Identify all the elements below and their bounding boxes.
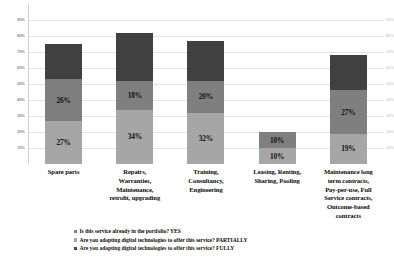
legend-item[interactable]: Is this service already in the portfolio… bbox=[74, 228, 374, 235]
bar-segment[interactable] bbox=[116, 33, 153, 81]
y-axis-tick-label: 60% bbox=[17, 66, 25, 70]
y-axis-tick-label-right: 40% bbox=[386, 98, 394, 102]
bar-segment-value-label: 26% bbox=[56, 96, 70, 105]
y-axis-tick-label-right: 60% bbox=[386, 66, 394, 70]
legend-item[interactable]: Are you adopting digital technologies to… bbox=[74, 245, 374, 252]
y-axis-tick-label: 80% bbox=[17, 34, 25, 38]
bar-segment[interactable]: 32% bbox=[187, 113, 224, 164]
legend-item-label: Is this service already in the portfolio… bbox=[79, 228, 180, 235]
x-axis-category-label: Maintenance longterm contracts,Pay-per-u… bbox=[315, 168, 381, 221]
bar-segment[interactable]: 18% bbox=[116, 81, 153, 110]
bar-column[interactable]: 20%32% bbox=[181, 4, 232, 164]
y-axis-tick-label: 10% bbox=[17, 146, 25, 150]
x-axis-category-label: Leasing, Renting,Sharing, Pooling bbox=[244, 168, 310, 221]
bar-segment[interactable] bbox=[45, 44, 82, 79]
bar-segment-value-label: 10% bbox=[270, 136, 284, 145]
y-axis-tick-label-right: 50% bbox=[386, 82, 394, 86]
bar-segment[interactable]: 19% bbox=[330, 134, 367, 164]
bar-segment[interactable]: 26% bbox=[45, 79, 82, 121]
y-axis-tick-label-right: 70% bbox=[386, 50, 394, 54]
bar-column[interactable]: 10%10% bbox=[252, 4, 303, 164]
chart-legend: Is this service already in the portfolio… bbox=[74, 228, 374, 254]
stacked-bar[interactable]: 10%10% bbox=[259, 132, 296, 164]
bar-segment-value-label: 34% bbox=[128, 132, 142, 141]
y-axis-tick-label: 20% bbox=[17, 130, 25, 134]
y-axis-tick-label: 30% bbox=[17, 114, 25, 118]
legend-item[interactable]: Are you adopting digital technologies to… bbox=[74, 237, 374, 244]
y-axis-tick-label-right: 10% bbox=[386, 146, 394, 150]
bar-segment[interactable]: 34% bbox=[116, 110, 153, 164]
y-axis-tick-label-right: 30% bbox=[386, 114, 394, 118]
bar-segment[interactable] bbox=[330, 55, 367, 90]
bar-segment[interactable]: 20% bbox=[187, 81, 224, 113]
y-axis-tick-label: 70% bbox=[17, 50, 25, 54]
bar-column[interactable]: 27%19% bbox=[323, 4, 374, 164]
bar-segment[interactable]: 27% bbox=[45, 121, 82, 164]
x-axis-category-labels: Spare partsRepairs,Warranties,Maintenanc… bbox=[28, 168, 384, 221]
y-axis-tick-label: 90% bbox=[17, 18, 25, 22]
bar-segment[interactable] bbox=[187, 41, 224, 81]
plot-area: 26%27%18%34%20%32%10%10%27%19% 90%90%80%… bbox=[28, 4, 384, 164]
bar-segment-value-label: 19% bbox=[341, 144, 355, 153]
bar-segment[interactable]: 10% bbox=[259, 132, 296, 148]
bar-segment-value-label: 10% bbox=[270, 152, 284, 161]
legend-item-label: Are you adopting digital technologies to… bbox=[79, 237, 247, 244]
bar-segment-value-label: 27% bbox=[56, 138, 70, 147]
bar-segment-value-label: 27% bbox=[341, 108, 355, 117]
legend-color-swatch bbox=[74, 247, 77, 250]
legend-color-swatch bbox=[74, 238, 77, 241]
legend-item-label: Are you adopting digital technologies to… bbox=[79, 245, 234, 252]
y-axis-tick-label-right: 20% bbox=[386, 130, 394, 134]
bar-column[interactable]: 26%27% bbox=[38, 4, 89, 164]
stacked-bar[interactable]: 27%19% bbox=[330, 55, 367, 164]
stacked-bar[interactable]: 20%32% bbox=[187, 41, 224, 164]
y-axis-tick-label-right: 80% bbox=[386, 34, 394, 38]
y-axis-tick-label: 50% bbox=[17, 82, 25, 86]
x-axis-category-label: Repairs,Warranties,Maintenance,retroﬁt, … bbox=[102, 168, 168, 221]
bar-group: 26%27%18%34%20%32%10%10%27%19% bbox=[28, 4, 384, 164]
bar-segment[interactable]: 27% bbox=[330, 90, 367, 133]
legend-color-swatch bbox=[74, 230, 77, 233]
bar-segment-value-label: 18% bbox=[128, 91, 142, 100]
x-axis-category-label: Training,Consultancy,Engineering bbox=[173, 168, 239, 221]
x-axis-category-label: Spare parts bbox=[30, 168, 96, 221]
stacked-bar[interactable]: 18%34% bbox=[116, 33, 153, 164]
stacked-bar[interactable]: 26%27% bbox=[45, 44, 82, 164]
bar-segment-value-label: 20% bbox=[199, 92, 213, 101]
bar-segment-value-label: 32% bbox=[199, 134, 213, 143]
y-axis-tick-label-right: 90% bbox=[386, 18, 394, 22]
y-axis-tick-label: 40% bbox=[17, 98, 25, 102]
bar-segment[interactable]: 10% bbox=[259, 148, 296, 164]
bar-column[interactable]: 18%34% bbox=[110, 4, 161, 164]
